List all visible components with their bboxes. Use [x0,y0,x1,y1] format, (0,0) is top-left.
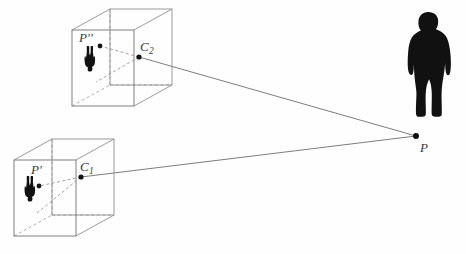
camera-box-upper [72,9,172,106]
image-point-upper-marker [98,44,103,49]
lower-box-front-face [14,160,76,236]
label-camera-center-lower: C1 [80,160,94,176]
label-image-point-upper-prime: ′′ [87,30,93,45]
label-world-point: P [420,141,428,154]
upper-box-projection-rays [96,46,139,82]
camera-box-lower [14,139,114,236]
ray-camera2-to-world-point [139,57,416,136]
image-point-lower-marker [37,184,42,189]
person-silhouette [408,12,451,117]
world-point-marker [413,133,419,139]
label-world-point-letter: P [420,140,428,155]
label-camera-center-lower-letter: C [80,159,89,174]
lower-box-projection-rays [37,177,81,213]
label-image-point-lower-letter: P [31,162,39,177]
label-camera-center-lower-subscript: 1 [89,166,94,176]
label-camera-center-upper-letter: C [140,39,149,54]
label-image-point-upper: P′′ [79,31,93,44]
label-image-point-lower: P′ [31,163,42,176]
lower-box-projected-person-silhouette [25,176,36,202]
label-camera-center-upper-subscript: 2 [149,46,154,56]
label-image-point-lower-prime: ′ [39,162,42,177]
pinhole-camera-diagram: P′′ C2 P′ C1 P [0,0,466,254]
upper-box-projected-person-silhouette [85,46,96,72]
diagram-canvas [0,0,466,254]
label-camera-center-upper: C2 [140,40,154,56]
sight-rays-group [81,57,416,177]
ray-camera1-to-world-point [81,136,416,177]
label-image-point-upper-letter: P [79,30,87,45]
